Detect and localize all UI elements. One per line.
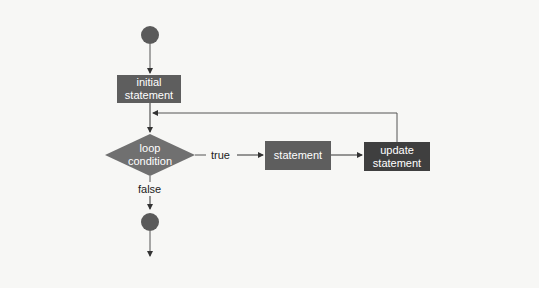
flowchart-canvas [0, 0, 539, 288]
loop-condition-diamond [105, 134, 195, 176]
edge-update-to-condition [153, 113, 397, 143]
true-edge-label: true [211, 149, 230, 162]
end-node [141, 213, 159, 231]
statement-box [265, 141, 331, 170]
false-edge-label: false [138, 183, 161, 196]
start-node [141, 26, 159, 44]
update-statement-box [364, 142, 430, 171]
initial-statement-box [117, 75, 181, 103]
